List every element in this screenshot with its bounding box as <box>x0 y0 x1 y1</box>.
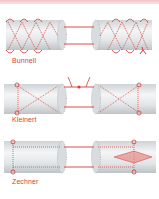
panel-zechner: Zechner <box>0 133 159 193</box>
knot-icon <box>78 86 81 89</box>
right-tendon-end <box>92 20 101 50</box>
top-band <box>0 0 159 4</box>
left-tendon-end <box>58 20 67 50</box>
panel-kleinert: Kleinert <box>0 72 159 128</box>
panel-label: Kleinert <box>12 116 37 123</box>
panel-label: Zechner <box>12 178 38 185</box>
panel-label: Bunnell <box>12 57 36 64</box>
panel-bunnell: Bunnell <box>0 8 159 68</box>
